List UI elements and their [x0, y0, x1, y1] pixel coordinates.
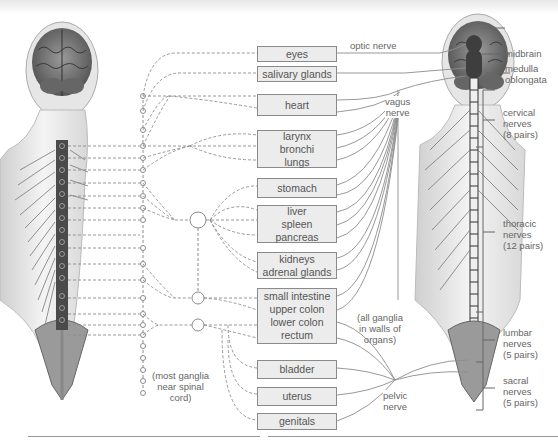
- cervical-nerves-label: cervical nerves (8 pairs): [503, 107, 538, 140]
- organ-box-intestine-colon-rectum: small intestine upper colon lower colon …: [257, 288, 337, 344]
- pelvic-nerve-label: pelvic nerve: [383, 390, 407, 412]
- organ-box-stomach: stomach: [257, 178, 337, 198]
- organ-label: small intestine: [264, 290, 331, 303]
- organ-label: lower colon: [270, 316, 323, 329]
- organ-box-kidneys-adrenal: kidneys adrenal glands: [257, 252, 337, 279]
- organ-label: larynx: [283, 130, 311, 143]
- organ-label: heart: [285, 99, 309, 112]
- thoracic-nerves-label: thoracic nerves (12 pairs): [503, 218, 543, 251]
- organ-box-liver-spleen-pancreas: liver spleen pancreas: [257, 205, 337, 243]
- organ-label: adrenal glands: [263, 266, 332, 279]
- organ-box-lungs: larynx bronchi lungs: [257, 130, 337, 168]
- organ-label: liver: [287, 205, 306, 218]
- organ-box-salivary-glands: salivary glands: [257, 66, 337, 82]
- sympathetic-chain: [141, 94, 146, 396]
- organ-label: bladder: [279, 363, 314, 376]
- optic-nerve-label: optic nerve: [350, 40, 396, 51]
- organ-label: salivary glands: [262, 68, 331, 81]
- organ-box-uterus: uterus: [257, 387, 337, 406]
- organ-box-bladder: bladder: [257, 360, 337, 379]
- collateral-ganglia: [190, 212, 206, 331]
- organ-label: spleen: [282, 218, 313, 231]
- medulla-oblongata-label: medulla oblongata: [505, 63, 547, 85]
- lumbar-nerves-label: lumbar nerves (5 pairs): [503, 327, 538, 360]
- bottom-divider-right: [268, 436, 558, 437]
- organ-box-eyes: eyes: [257, 46, 337, 62]
- organ-label: stomach: [277, 182, 317, 195]
- midbrain-label: midbrain: [505, 48, 541, 59]
- organ-box-genitals: genitals: [257, 413, 337, 430]
- organ-box-heart: heart: [257, 94, 337, 116]
- left-body-figure: [0, 22, 98, 400]
- bottom-divider-left: [28, 436, 260, 437]
- organ-label: uterus: [282, 390, 311, 403]
- organ-label: upper colon: [270, 303, 325, 316]
- organ-label: bronchi: [280, 143, 314, 156]
- autonomic-nervous-system-diagram: eyes salivary glands heart larynx bronch…: [0, 0, 558, 444]
- organ-label: rectum: [281, 329, 313, 342]
- organ-label: pancreas: [275, 231, 318, 244]
- vagus-nerve-label: vagus nerve: [385, 96, 410, 118]
- organ-label: genitals: [279, 415, 315, 428]
- organ-label: eyes: [286, 48, 308, 61]
- organ-label: kidneys: [279, 253, 315, 266]
- ganglia-in-organ-walls-label: (all ganglia in walls of organs): [357, 312, 403, 345]
- postganglionic-fibers: [143, 53, 257, 420]
- organ-label: lungs: [284, 156, 309, 169]
- sacral-nerves-label: sacral nerves (5 pairs): [503, 375, 538, 408]
- ganglia-near-spinal-cord-label: (most ganglia near spinal cord): [152, 370, 209, 403]
